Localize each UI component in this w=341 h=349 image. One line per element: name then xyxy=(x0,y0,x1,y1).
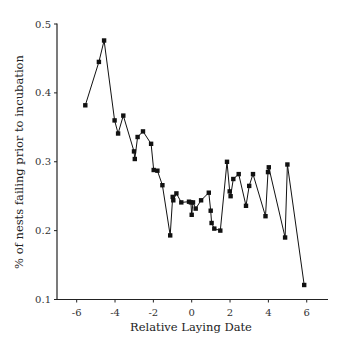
data-point-marker xyxy=(231,177,235,181)
data-point-marker xyxy=(285,162,289,166)
axes: 0.10.20.30.40.5-6-4-20246 xyxy=(35,19,328,318)
line-chart: 0.10.20.30.40.5-6-4-20246 Relative Layin… xyxy=(0,0,341,349)
data-point-marker xyxy=(112,118,116,122)
data-point-marker xyxy=(116,131,120,135)
data-point-marker xyxy=(225,160,229,164)
data-point-marker xyxy=(174,191,178,195)
data-point-marker xyxy=(207,191,211,195)
data-point-marker xyxy=(149,142,153,146)
data-series xyxy=(83,38,306,287)
data-point-marker xyxy=(209,209,213,213)
data-point-marker xyxy=(135,135,139,139)
x-tick-label: -2 xyxy=(148,307,158,318)
y-tick-label: 0.4 xyxy=(35,87,51,98)
data-point-marker xyxy=(218,228,222,232)
data-point-marker xyxy=(244,204,248,208)
data-point-marker xyxy=(155,169,159,173)
data-point-marker xyxy=(191,200,195,204)
x-tick-label: -6 xyxy=(72,307,82,318)
data-point-marker xyxy=(283,235,287,239)
y-axis-title: % of nests failing prior to incubation xyxy=(12,54,26,268)
y-tick-label: 0.5 xyxy=(35,19,51,30)
data-point-marker xyxy=(266,170,270,174)
data-point-marker xyxy=(190,213,194,217)
data-point-marker xyxy=(160,183,164,187)
x-tick-label: 0 xyxy=(189,307,195,318)
data-point-marker xyxy=(141,129,145,133)
data-point-marker xyxy=(251,172,255,176)
data-point-marker xyxy=(132,149,136,153)
data-point-marker xyxy=(194,206,198,210)
data-point-marker xyxy=(212,226,216,230)
x-tick-label: 4 xyxy=(265,307,271,318)
data-point-marker xyxy=(168,233,172,237)
x-tick-label: 6 xyxy=(304,307,310,318)
data-point-marker xyxy=(83,103,87,107)
data-point-marker xyxy=(97,60,101,64)
y-tick-label: 0.2 xyxy=(35,225,51,236)
data-point-marker xyxy=(179,200,183,204)
x-tick-label: 2 xyxy=(227,307,233,318)
x-axis-title: Relative Laying Date xyxy=(130,320,252,334)
data-point-marker xyxy=(228,194,232,198)
series-line xyxy=(85,41,304,286)
data-point-marker xyxy=(199,198,203,202)
y-tick-label: 0.3 xyxy=(35,156,51,167)
data-point-marker xyxy=(228,189,232,193)
x-tick-label: -4 xyxy=(110,307,120,318)
data-point-marker xyxy=(267,165,271,169)
data-point-marker xyxy=(171,198,175,202)
data-point-marker xyxy=(133,157,137,161)
data-point-marker xyxy=(263,214,267,218)
y-tick-label: 0.1 xyxy=(35,294,51,305)
data-point-marker xyxy=(237,172,241,176)
data-point-marker xyxy=(247,184,251,188)
data-point-marker xyxy=(121,113,125,117)
data-point-marker xyxy=(209,221,213,225)
data-point-marker xyxy=(302,283,306,287)
data-point-marker xyxy=(102,38,106,42)
